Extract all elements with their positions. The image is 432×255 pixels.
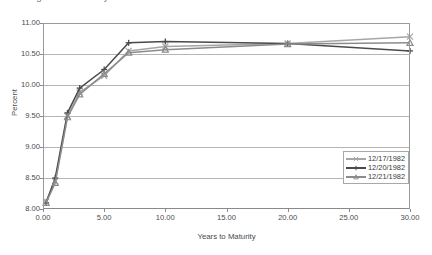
x-axis-tick-mark bbox=[288, 209, 289, 212]
legend-item[interactable]: 12/17/1982 bbox=[346, 154, 405, 163]
y-axis-tick-label: 9.00 bbox=[4, 143, 40, 151]
x-axis-tick-label: 25.00 bbox=[329, 213, 369, 222]
legend-swatch-icon bbox=[346, 154, 366, 163]
x-axis-tick-mark bbox=[43, 209, 44, 212]
y-axis-tick-labels: 8.008.509.009.5010.0010.5011.00 bbox=[0, 23, 40, 209]
x-axis-tick-labels: 0.005.0010.0015.0020.0025.0030.00 bbox=[43, 213, 410, 223]
x-axis-tick-mark bbox=[349, 209, 350, 212]
x-axis-tick-label: 20.00 bbox=[268, 213, 308, 222]
x-axis-tick-label: 15.00 bbox=[207, 213, 247, 222]
x-axis-tick-label: 10.00 bbox=[145, 213, 185, 222]
chart-title: Figure 1. Treasury Yield Curves bbox=[28, 0, 408, 3]
x-axis-tick-mark bbox=[227, 209, 228, 212]
x-axis-tick-label: 5.00 bbox=[84, 213, 124, 222]
x-axis-title: Years to Maturity bbox=[43, 232, 410, 241]
y-axis-tick-label: 10.50 bbox=[4, 50, 40, 58]
x-axis-tick-label: 30.00 bbox=[390, 213, 430, 222]
legend-label: 12/17/1982 bbox=[368, 154, 405, 163]
legend-swatch-icon bbox=[346, 172, 366, 181]
data-point-marker bbox=[354, 165, 359, 170]
yield-curve-chart: Figure 1. Treasury Yield Curves 8.008.50… bbox=[0, 0, 432, 255]
y-axis-title: Percent bbox=[10, 73, 19, 133]
x-axis-tick-mark bbox=[165, 209, 166, 212]
legend-item[interactable]: 12/20/1982 bbox=[346, 163, 405, 172]
legend-label: 12/20/1982 bbox=[368, 163, 405, 172]
legend-swatch-icon bbox=[346, 163, 366, 172]
x-axis-tick-mark bbox=[410, 209, 411, 212]
data-point-marker bbox=[354, 156, 359, 161]
data-point-marker bbox=[354, 174, 359, 178]
y-axis-tick-label: 8.00 bbox=[4, 205, 40, 213]
x-axis-tick-label: 0.00 bbox=[23, 213, 63, 222]
x-axis-tick-mark bbox=[104, 209, 105, 212]
legend-label: 12/21/1982 bbox=[368, 172, 405, 181]
legend-item[interactable]: 12/21/1982 bbox=[346, 172, 405, 181]
y-axis-tick-label: 8.50 bbox=[4, 174, 40, 182]
y-axis-tick-label: 11.00 bbox=[4, 19, 40, 27]
chart-legend[interactable]: 12/17/198212/20/198212/21/1982 bbox=[343, 151, 409, 184]
